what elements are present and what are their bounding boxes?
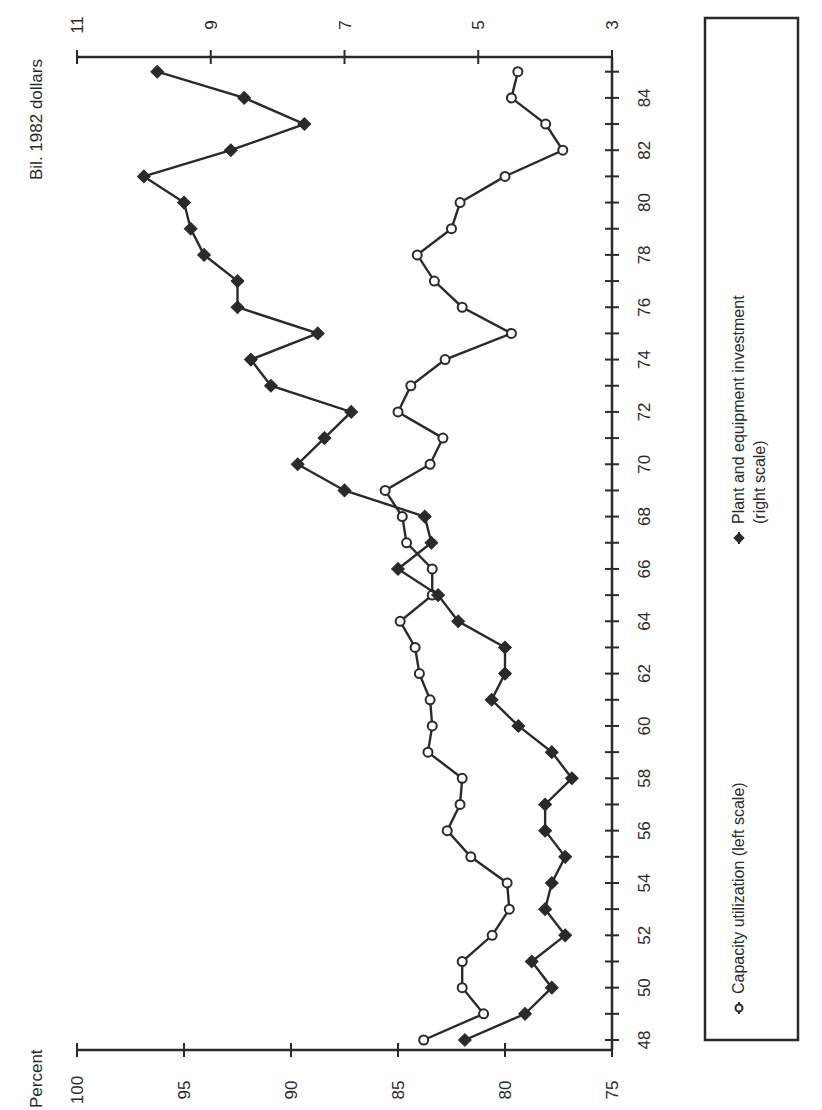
data-point (396, 617, 405, 626)
data-point (441, 355, 450, 364)
year-tick-label: 62 (635, 664, 654, 683)
dollars-tick-label: 11 (68, 16, 87, 34)
data-point (419, 1036, 428, 1045)
year-tick-label: 66 (635, 559, 654, 578)
right-axis-dollars: 119753Bil. 1982 dollars (27, 16, 622, 180)
data-point (184, 222, 197, 235)
data-point (413, 250, 422, 259)
year-tick-label: 76 (635, 298, 654, 317)
data-point (458, 774, 467, 783)
filled-diamond-marker-icon (734, 533, 744, 543)
legend-label-capacity: Capacity utilization (left scale) (730, 782, 747, 994)
year-tick-label: 50 (635, 978, 654, 997)
data-point (394, 407, 403, 416)
percent-axis-title: Percent (27, 1049, 46, 1108)
legend: Capacity utilization (left scale) Plant … (705, 18, 798, 1040)
data-point (507, 93, 516, 102)
data-point (499, 641, 512, 654)
year-tick-label: 80 (635, 193, 654, 212)
year-tick-label: 52 (635, 926, 654, 945)
percent-tick-label: 75 (603, 1081, 622, 1100)
data-point (503, 878, 512, 887)
year-tick-label: 70 (635, 455, 654, 474)
data-point (456, 800, 465, 809)
data-point (479, 1009, 488, 1018)
open-circle-marker-icon (736, 1005, 743, 1012)
legend-label-investment-line1: Plant and equipment investment (730, 295, 747, 524)
percent-tick-label: 85 (389, 1081, 408, 1100)
dollars-tick-label: 9 (202, 20, 221, 29)
legend-item-capacity: Capacity utilization (left scale) (730, 782, 747, 1014)
data-point (311, 327, 324, 340)
legend-label-investment-line2: (right scale) (751, 440, 768, 524)
year-tick-label: 48 (635, 1031, 654, 1050)
data-point (428, 721, 437, 730)
data-point (423, 748, 432, 757)
year-tick-label: 64 (635, 612, 654, 631)
data-point (430, 277, 439, 286)
data-point (381, 486, 390, 495)
data-point (224, 144, 237, 157)
percent-tick-label: 90 (282, 1081, 301, 1100)
data-point (466, 852, 475, 861)
data-point (402, 538, 411, 547)
data-point (488, 931, 497, 940)
data-point (541, 120, 550, 129)
year-tick-label: 58 (635, 769, 654, 788)
left-axis-percent: 1009590858075Percent (27, 1043, 622, 1108)
data-point (501, 172, 510, 181)
data-point (398, 512, 407, 521)
data-point (458, 983, 467, 992)
data-point (426, 695, 435, 704)
data-point (178, 196, 191, 209)
year-axis: 48505254565860626466687072747678808284 (605, 57, 654, 1050)
data-point (443, 826, 452, 835)
data-point (438, 434, 447, 443)
year-tick-label: 60 (635, 716, 654, 735)
data-point (418, 510, 431, 523)
data-point (513, 67, 522, 76)
data-point (459, 1034, 472, 1047)
year-tick-label: 56 (635, 821, 654, 840)
data-point (338, 484, 351, 497)
series-plant-equipment-investment (138, 65, 579, 1046)
data-point (456, 198, 465, 207)
legend-box (705, 18, 798, 1040)
series-line (385, 72, 563, 1040)
dollars-tick-label: 5 (469, 20, 488, 29)
data-point (426, 460, 435, 469)
percent-tick-label: 80 (496, 1081, 515, 1100)
dollars-tick-label: 3 (603, 20, 622, 29)
dollars-axis-title: Bil. 1982 dollars (27, 59, 46, 180)
percent-tick-label: 95 (175, 1081, 194, 1100)
data-point (231, 301, 244, 314)
data-point (428, 564, 437, 573)
year-tick-label: 54 (635, 874, 654, 893)
year-tick-label: 74 (635, 350, 654, 369)
data-point (138, 170, 151, 183)
data-point (545, 877, 558, 890)
data-point (447, 224, 456, 233)
year-tick-label: 84 (635, 88, 654, 107)
legend-item-investment: Plant and equipment investment (right sc… (730, 295, 768, 544)
dollars-tick-label: 7 (336, 20, 355, 29)
year-tick-label: 78 (635, 245, 654, 264)
data-point (298, 118, 311, 131)
data-point (458, 303, 467, 312)
data-point (238, 92, 251, 105)
data-point (415, 669, 424, 678)
year-tick-label: 82 (635, 141, 654, 160)
data-point (406, 381, 415, 390)
year-tick-label: 68 (635, 507, 654, 526)
percent-tick-label: 100 (68, 1076, 87, 1104)
data-point (505, 905, 514, 914)
data-point (411, 643, 420, 652)
data-point (558, 146, 567, 155)
data-point (458, 957, 467, 966)
data-point (499, 667, 512, 680)
series-capacity-utilization (381, 67, 568, 1044)
data-point (151, 65, 164, 78)
year-tick-label: 72 (635, 402, 654, 421)
chart-canvas: 1009590858075Percent 119753Bil. 1982 dol… (0, 0, 822, 1110)
chart: 1009590858075Percent 119753Bil. 1982 dol… (0, 0, 822, 1110)
